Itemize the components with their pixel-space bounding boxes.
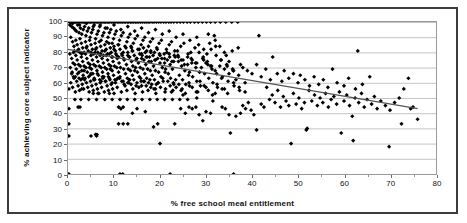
y-tick-mark (64, 52, 67, 53)
x-tick-label: 40 (232, 179, 272, 188)
y-tick-mark (64, 113, 67, 114)
y-tick-mark (64, 98, 67, 99)
x-tick-label: 50 (278, 179, 318, 188)
chart-inner: % achieving core subject indicator 01020… (9, 9, 456, 212)
x-tick-mark (298, 175, 299, 178)
x-tick-label: 30 (186, 179, 226, 188)
y-tick-mark (64, 83, 67, 84)
y-tick-mark (64, 144, 67, 145)
x-minor-tick-mark (414, 175, 415, 177)
x-tick-label: 60 (325, 179, 365, 188)
y-tick-mark (64, 36, 67, 37)
x-tick-mark (67, 175, 68, 178)
y-tick-label: 50 (22, 94, 62, 103)
x-minor-tick-mark (321, 175, 322, 177)
y-tick-mark (64, 67, 67, 68)
chart-figure: % achieving core subject indicator 01020… (7, 7, 458, 214)
y-tick-label: 100 (22, 17, 62, 26)
x-minor-tick-mark (368, 175, 369, 177)
x-tick-label: 10 (93, 179, 133, 188)
y-tick-label: 60 (22, 78, 62, 87)
x-tick-mark (160, 175, 161, 178)
x-tick-mark (252, 175, 253, 178)
x-tick-label: 70 (371, 179, 411, 188)
plot-area (67, 21, 437, 175)
y-tick-label: 70 (22, 63, 62, 72)
x-axis-title: % free school meal entitlement (9, 199, 456, 208)
x-tick-mark (206, 175, 207, 178)
x-tick-mark (391, 175, 392, 178)
y-tick-label: 10 (22, 155, 62, 164)
y-tick-mark (64, 129, 67, 130)
x-minor-tick-mark (136, 175, 137, 177)
x-minor-tick-mark (183, 175, 184, 177)
x-tick-label: 80 (417, 179, 457, 188)
x-tick-label: 20 (140, 179, 180, 188)
y-tick-label: 30 (22, 124, 62, 133)
y-tick-mark (64, 21, 67, 22)
y-tick-label: 90 (22, 32, 62, 41)
x-minor-tick-mark (229, 175, 230, 177)
x-tick-mark (345, 175, 346, 178)
x-minor-tick-mark (275, 175, 276, 177)
y-tick-label: 80 (22, 47, 62, 56)
y-tick-mark (64, 160, 67, 161)
x-tick-mark (113, 175, 114, 178)
x-tick-mark (437, 175, 438, 178)
scatter-points-layer (68, 22, 436, 174)
y-tick-label: 40 (22, 109, 62, 118)
x-minor-tick-mark (90, 175, 91, 177)
y-tick-label: 20 (22, 140, 62, 149)
x-tick-label: 0 (47, 179, 87, 188)
